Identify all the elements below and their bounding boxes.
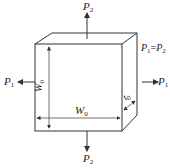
label-subscript: 1 bbox=[11, 81, 15, 89]
p1-left-label: P1 bbox=[4, 76, 14, 89]
label-symbol: P bbox=[83, 152, 90, 164]
p1-right-label: P1 bbox=[158, 76, 168, 89]
label-subscript: 1 bbox=[165, 81, 169, 89]
top-face bbox=[35, 33, 137, 44]
label-symbol: P bbox=[158, 75, 165, 87]
label-subscript: 0 bbox=[38, 80, 46, 84]
width-dimension-label: W0 bbox=[75, 105, 88, 118]
label-symbol: P bbox=[4, 75, 11, 87]
label-subscript: 2 bbox=[90, 158, 94, 166]
height-dimension-label: W0 bbox=[34, 80, 46, 92]
right-face bbox=[122, 33, 137, 131]
label-symbol: W bbox=[33, 84, 44, 92]
p2-bottom-label: P2 bbox=[83, 153, 93, 166]
p2-top-label: P2 bbox=[83, 1, 93, 14]
equality-label: P1=P2 bbox=[141, 43, 166, 55]
label-subscript: 2 bbox=[162, 47, 166, 55]
cube-diagram bbox=[0, 0, 170, 168]
label-subscript: 2 bbox=[90, 6, 94, 14]
label-symbol: W bbox=[75, 104, 84, 116]
label-symbol: P bbox=[83, 0, 90, 12]
label-subscript: 0 bbox=[84, 110, 88, 118]
